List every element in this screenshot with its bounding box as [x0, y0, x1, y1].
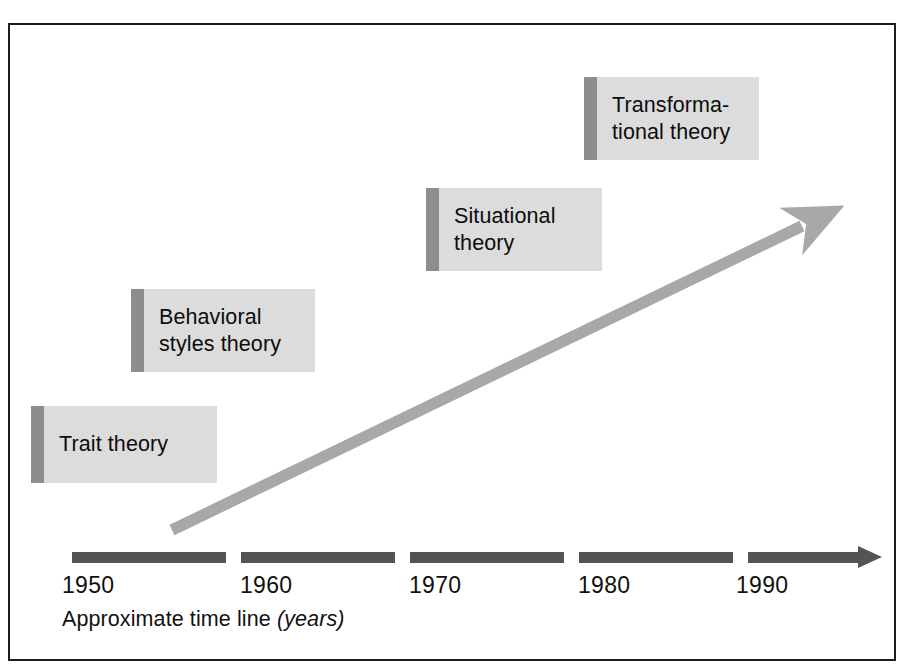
- year-label-1960: 1960: [240, 572, 292, 599]
- theory-box-label: Behavioral styles theory: [131, 304, 291, 358]
- theory-box-transformational[interactable]: Transforma- tional theory: [584, 77, 759, 160]
- timeline-segment: [748, 552, 861, 563]
- timeline-arrowhead-icon: [858, 546, 882, 568]
- year-label-1990: 1990: [736, 572, 788, 599]
- figure-canvas: Transforma- tional theory Situational th…: [0, 0, 909, 668]
- axis-caption-text: Approximate time line: [62, 607, 277, 631]
- theory-box-label: Trait theory: [31, 431, 178, 458]
- year-label-1970: 1970: [409, 572, 461, 599]
- timeline-segment: [72, 552, 226, 563]
- year-label-1980: 1980: [578, 572, 630, 599]
- theory-box-behavioral[interactable]: Behavioral styles theory: [131, 289, 315, 372]
- axis-caption-units: (years): [277, 607, 345, 631]
- year-label-1950: 1950: [62, 572, 114, 599]
- theory-box-trait[interactable]: Trait theory: [31, 406, 217, 483]
- timeline-segment: [579, 552, 733, 563]
- theory-box-situational[interactable]: Situational theory: [426, 188, 602, 271]
- timeline-segment: [410, 552, 564, 563]
- timeline-segment: [241, 552, 395, 563]
- theory-box-label: Situational theory: [426, 203, 566, 257]
- theory-box-label: Transforma- tional theory: [584, 92, 740, 146]
- axis-caption: Approximate time line (years): [62, 607, 345, 632]
